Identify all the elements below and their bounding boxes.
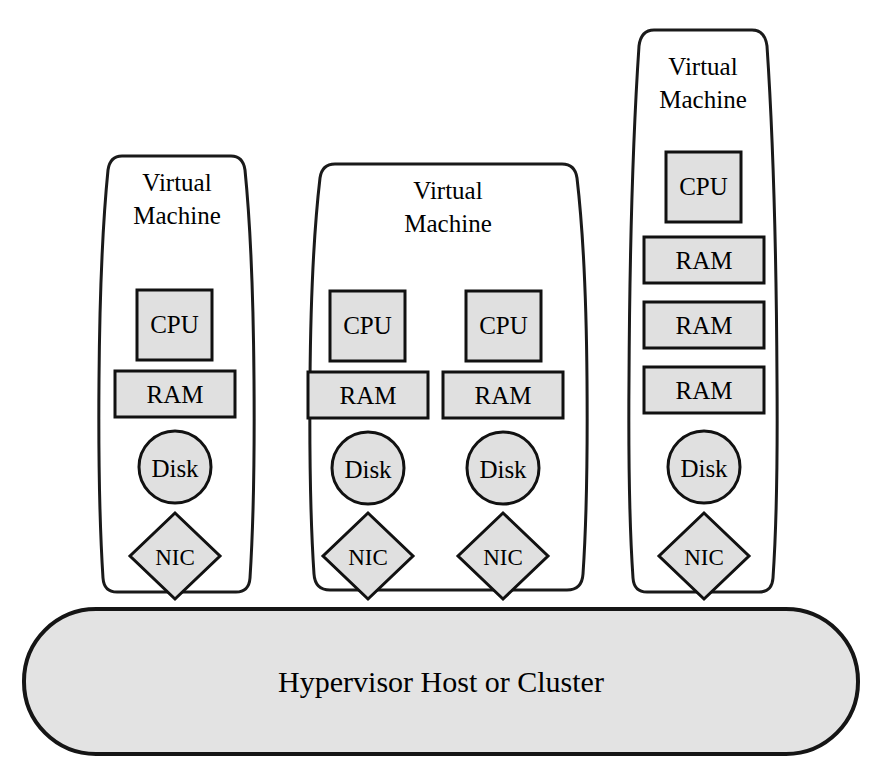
vm-2-col1-nic-label: NIC — [348, 545, 388, 570]
vm-3-ram-3[interactable]: RAM — [644, 367, 764, 413]
vm-1-group[interactable]: Virtual Machine CPU RAM Disk NIC — [99, 156, 254, 599]
vm-1-ram-1-label: RAM — [147, 381, 204, 408]
hypervisor-group[interactable]: Hypervisor Host or Cluster — [24, 609, 858, 754]
vm-2-col1-disk[interactable]: Disk — [332, 432, 404, 504]
vm-3-group[interactable]: Virtual Machine CPU RAM RAM RAM Disk — [629, 30, 777, 599]
vm-2-col1-cpu-label: CPU — [343, 312, 392, 339]
vm-2-title-line1: Virtual — [413, 177, 482, 204]
vm-2-group[interactable]: Virtual Machine CPU RAM Disk NIC — [308, 164, 587, 599]
vm-1-cpu-label: CPU — [150, 311, 199, 338]
vm-2-col2-disk[interactable]: Disk — [467, 432, 539, 504]
vm-2-col2-nic-label: NIC — [483, 545, 523, 570]
vm-3-title-line2: Machine — [659, 86, 746, 113]
vm-3-ram-1[interactable]: RAM — [644, 237, 764, 283]
vm-1-ram-1[interactable]: RAM — [115, 371, 235, 417]
vm-1-title-line2: Machine — [133, 202, 220, 229]
vm-2-col2-cpu-label: CPU — [479, 312, 528, 339]
virtualization-architecture-diagram: Virtual Machine CPU RAM Disk NIC Virtual… — [0, 0, 872, 768]
vm-2-title-line2: Machine — [404, 210, 491, 237]
vm-3-cpu-label: CPU — [679, 173, 728, 200]
vm-3-ram-1-label: RAM — [676, 247, 733, 274]
vm-3-cpu[interactable]: CPU — [666, 152, 741, 222]
vm-2-col2-disk-label: Disk — [479, 456, 527, 483]
vm-2-col1-cpu[interactable]: CPU — [330, 291, 405, 361]
vm-2-col1-ram-1-label: RAM — [340, 382, 397, 409]
vm-1-cpu[interactable]: CPU — [137, 290, 212, 360]
vm-2-col2-ram-1-label: RAM — [475, 382, 532, 409]
vm-3-title-line1: Virtual — [668, 53, 737, 80]
vm-1-disk[interactable]: Disk — [139, 431, 211, 503]
vm-2-col2-ram-1[interactable]: RAM — [443, 372, 563, 418]
vm-3-ram-2-label: RAM — [676, 312, 733, 339]
vm-3-disk-label: Disk — [680, 455, 728, 482]
vm-3-disk[interactable]: Disk — [668, 431, 740, 503]
vm-1-disk-label: Disk — [151, 455, 199, 482]
vm-3-ram-3-label: RAM — [676, 377, 733, 404]
hypervisor-label: Hypervisor Host or Cluster — [278, 665, 604, 698]
vm-1-title-line1: Virtual — [142, 169, 211, 196]
vm-2-col1-ram-1[interactable]: RAM — [308, 372, 428, 418]
vm-2-col1-disk-label: Disk — [344, 456, 392, 483]
vm-2-col2-cpu[interactable]: CPU — [466, 291, 541, 361]
vm-3-nic-label: NIC — [684, 545, 724, 570]
vm-3-ram-2[interactable]: RAM — [644, 302, 764, 348]
vm-1-nic-label: NIC — [155, 545, 195, 570]
diagram-canvas: Virtual Machine CPU RAM Disk NIC Virtual… — [0, 0, 872, 768]
